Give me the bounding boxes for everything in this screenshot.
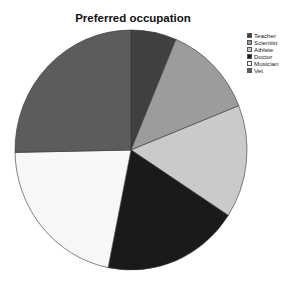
legend-label-doctor: Doctor [254, 53, 272, 60]
legend-item-teacher: Teacher [247, 32, 278, 39]
legend-label-vet: Vet [254, 67, 263, 74]
legend-item-musician: Musician [247, 60, 278, 67]
legend-item-doctor: Doctor [247, 53, 278, 60]
legend-swatch-athlete [247, 47, 252, 52]
legend-swatch-teacher [247, 33, 252, 38]
legend: Teacher Scientist Athlete Doctor Musicia… [247, 32, 278, 74]
legend-swatch-doctor [247, 54, 252, 59]
legend-label-teacher: Teacher [254, 32, 276, 39]
legend-swatch-musician [247, 61, 252, 66]
legend-swatch-vet [247, 68, 252, 73]
legend-item-vet: Vet [247, 67, 278, 74]
legend-item-athlete: Athlete [247, 46, 278, 53]
pie-slices [15, 30, 247, 270]
legend-swatch-scientist [247, 40, 252, 45]
legend-item-scientist: Scientist [247, 39, 278, 46]
legend-label-musician: Musician [254, 60, 278, 67]
pie-slice-vet [15, 30, 131, 152]
legend-label-athlete: Athlete [254, 46, 273, 53]
legend-label-scientist: Scientist [254, 39, 277, 46]
